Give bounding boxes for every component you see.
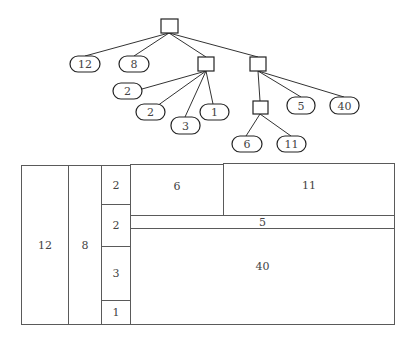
leaf-label: 8	[131, 58, 138, 71]
leaf-label: 1	[211, 106, 218, 119]
treemap-cell-2b: 2	[101, 204, 131, 247]
cell-label: 6	[174, 180, 181, 193]
cell-label: 2	[113, 179, 120, 192]
root-node	[161, 19, 178, 33]
treemap-cell-40: 40	[130, 228, 395, 325]
cell-label: 40	[256, 260, 270, 273]
leaf-node-40: 40	[330, 97, 359, 114]
leaf-label: 5	[298, 100, 305, 113]
cell-label: 1	[113, 306, 120, 319]
treemap-cell-8: 8	[68, 165, 102, 325]
leaf-label: 2	[147, 106, 154, 119]
leaf-node-1: 1	[200, 104, 229, 120]
cell-label: 11	[302, 179, 316, 192]
group-b-node	[250, 57, 266, 71]
leaf-node-12: 12	[70, 56, 100, 72]
cell-label: 2	[113, 219, 120, 232]
tree-diagram: 12 8 2 2 3 1 5 40 6 11	[0, 0, 415, 160]
leaf-label: 3	[182, 120, 189, 133]
treemap-cell-11: 11	[223, 163, 395, 216]
leaf-node-3: 3	[171, 117, 200, 134]
treemap-cell-2a: 2	[101, 165, 131, 205]
leaf-node-2b: 2	[136, 104, 165, 120]
treemap-cell-3: 3	[101, 246, 131, 301]
cell-label: 12	[38, 239, 52, 252]
group-a-node	[198, 57, 214, 71]
cell-label: 3	[113, 267, 120, 280]
treemap-cell-1: 1	[101, 300, 131, 325]
leaf-label: 40	[338, 100, 352, 113]
cell-label: 5	[259, 216, 266, 229]
treemap-cell-12: 12	[21, 165, 69, 325]
leaf-node-8: 8	[119, 56, 149, 72]
treemap-cell-5: 5	[130, 215, 395, 229]
leaf-node-5: 5	[287, 97, 315, 114]
leaf-label: 2	[124, 85, 131, 98]
group-c-node	[253, 101, 268, 114]
treemap-cell-6: 6	[130, 164, 224, 216]
leaf-label: 11	[285, 138, 299, 151]
leaf-node-11: 11	[277, 136, 306, 152]
leaf-label: 6	[244, 138, 251, 151]
leaf-node-2a: 2	[113, 83, 142, 99]
cell-label: 8	[82, 239, 89, 252]
leaf-label: 12	[78, 58, 92, 71]
leaf-node-6: 6	[232, 136, 262, 152]
